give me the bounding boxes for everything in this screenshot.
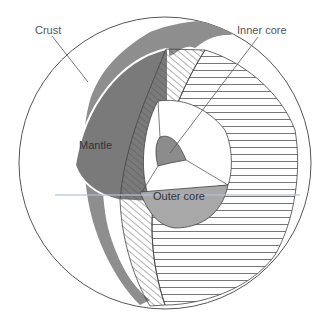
outer-core-label: Outer core: [153, 190, 205, 202]
crust-label: Crust: [35, 24, 61, 36]
mantle-label: Mantle: [79, 139, 112, 151]
earth-cutaway-diagram: [0, 0, 317, 324]
inner-core-label: Inner core: [237, 24, 287, 36]
